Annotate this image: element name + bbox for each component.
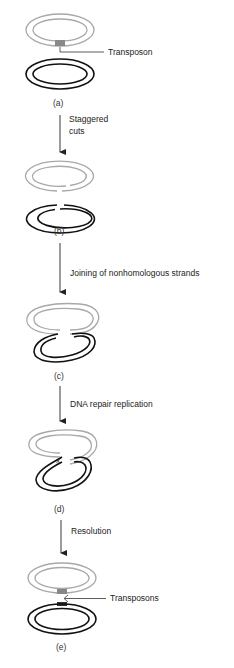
transposition-diagram: x <box>0 0 234 668</box>
transposon-copy-1 <box>57 589 67 594</box>
transposon-label: Transposon <box>108 47 153 58</box>
target-plasmid-icon <box>26 59 94 89</box>
cointegrate-target-icon <box>34 333 95 362</box>
replicated-target-icon <box>36 457 91 491</box>
stage-e-graphic <box>28 563 106 634</box>
transposon-leader-line <box>60 47 104 52</box>
crossover-mark: x <box>56 456 60 465</box>
stage-label-e: (e) <box>56 642 66 652</box>
stage-label-a: (a) <box>53 98 63 108</box>
donor-plasmid-cut-icon <box>26 161 94 191</box>
transposon-segment <box>55 40 65 46</box>
target-plasmid-final-icon <box>28 604 96 634</box>
stage-b-graphic <box>26 161 95 233</box>
step-1-label-line1: Staggered <box>69 114 108 125</box>
step-1-label-line2: cuts <box>69 126 85 137</box>
stage-label-d: (d) <box>54 504 64 514</box>
stage-a-graphic <box>26 14 104 89</box>
donor-plasmid-final-icon <box>28 563 96 593</box>
transposons-label: Transposons <box>110 593 159 604</box>
cointegrate-donor-icon <box>27 304 99 334</box>
step-4-label: Resolution <box>71 526 111 537</box>
stage-c-graphic <box>27 304 99 362</box>
step-2-label: Joining of nonhomologous strands <box>70 268 199 279</box>
stage-label-c: (c) <box>54 371 64 381</box>
step-3-label: DNA repair replication <box>70 399 153 410</box>
stage-d-graphic: x <box>29 430 97 491</box>
stage-label-b: (b) <box>54 226 64 236</box>
